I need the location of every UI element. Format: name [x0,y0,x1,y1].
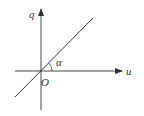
q-u-diagram: q u O α [0,0,144,116]
u-axis-label: u [126,65,132,77]
angle-arc [49,63,52,71]
sloped-line [15,18,93,97]
origin-label: O [41,76,49,88]
q-axis-label: q [29,8,35,20]
angle-label: α [56,56,62,68]
